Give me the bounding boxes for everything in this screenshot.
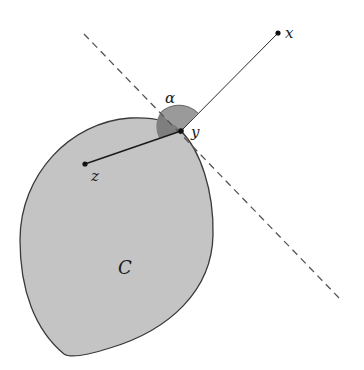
point-y	[178, 128, 184, 134]
point-z	[82, 161, 87, 166]
label-y: y	[190, 123, 200, 141]
point-x	[275, 30, 280, 35]
segment-y-x	[181, 33, 278, 131]
label-set-c: C	[118, 257, 132, 278]
label-alpha: α	[165, 89, 175, 107]
label-x: x	[285, 24, 294, 42]
label-z: z	[90, 167, 99, 185]
diagram-canvas: x y z α C	[0, 0, 364, 370]
